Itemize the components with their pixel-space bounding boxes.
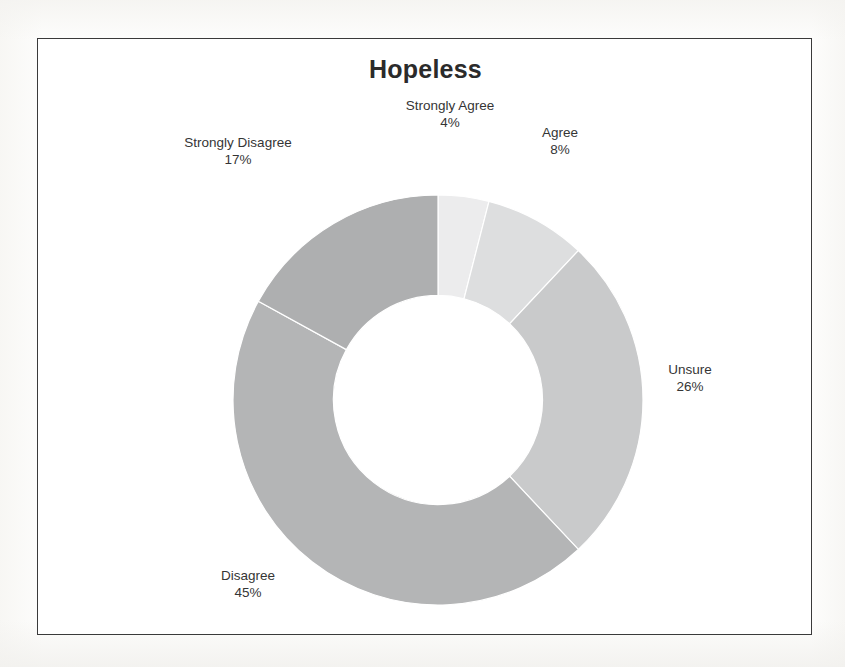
slice-label-agree: Agree 8% — [500, 124, 620, 158]
donut-slice-group — [233, 195, 643, 605]
slice-label-unsure: Unsure 26% — [630, 361, 750, 395]
slice-label-strongly-disagree-name: Strongly Disagree — [138, 134, 338, 151]
donut-slice-disagree[interactable] — [233, 301, 578, 605]
slice-label-unsure-name: Unsure — [630, 361, 750, 378]
slice-label-strongly-disagree-value: 17% — [138, 151, 338, 168]
chart-frame: Hopeless Strongly Agree 4% Agree 8% Unsu… — [37, 38, 812, 635]
slice-label-strongly-agree-name: Strongly Agree — [370, 97, 530, 114]
slice-label-disagree: Disagree 45% — [178, 567, 318, 601]
donut-svg — [228, 190, 648, 610]
slice-label-disagree-name: Disagree — [178, 567, 318, 584]
scanned-page: Hopeless Strongly Agree 4% Agree 8% Unsu… — [0, 0, 845, 667]
slice-label-unsure-value: 26% — [630, 378, 750, 395]
slice-label-agree-name: Agree — [500, 124, 620, 141]
slice-label-agree-value: 8% — [500, 141, 620, 158]
slice-label-strongly-disagree: Strongly Disagree 17% — [138, 134, 338, 168]
slice-label-disagree-value: 45% — [178, 584, 318, 601]
